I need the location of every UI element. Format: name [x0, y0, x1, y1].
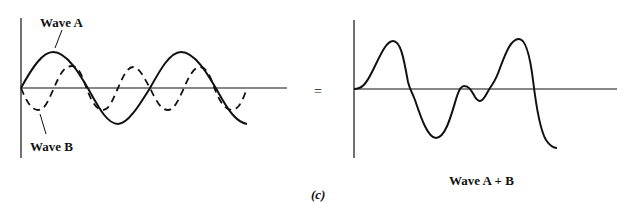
wave-diagram — [0, 0, 634, 203]
panel-label: (c) — [311, 188, 325, 201]
wave-b-leader-line — [40, 114, 46, 134]
wave-a-label: Wave A — [40, 16, 83, 29]
sum-wave-curve — [354, 39, 557, 148]
wave-a-leader-line — [55, 30, 62, 48]
sum-wave-label: Wave A + B — [449, 174, 514, 187]
equals-sign: = — [314, 85, 322, 99]
wave-b-label: Wave B — [30, 140, 73, 153]
left-axes — [21, 18, 287, 158]
